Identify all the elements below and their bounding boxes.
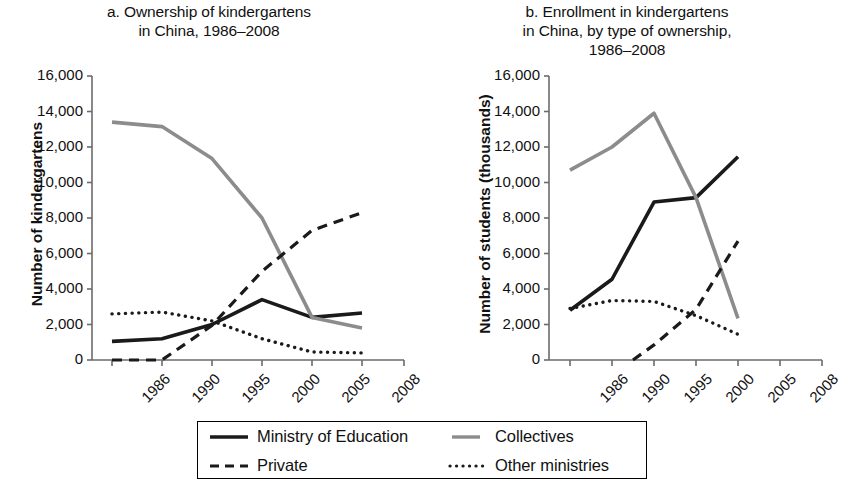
legend-item-ministry-of-education: Ministry of Education (208, 422, 408, 451)
y-tick-label: 6,000 (502, 244, 540, 261)
y-tick-label: 8,000 (45, 208, 83, 225)
legend-row-1: Ministry of Education Collectives (198, 422, 646, 451)
y-tick-label: 12,000 (37, 137, 83, 154)
panel-a-plot (0, 0, 418, 410)
y-tick-label: 16,000 (494, 66, 540, 83)
y-tick-label: 0 (532, 350, 540, 367)
chart-legend: Ministry of Education Collectives Privat… (197, 421, 647, 479)
chart-panel-b: b. Enrollment in kindergartens in China,… (418, 0, 836, 410)
y-tick-label: 0 (75, 350, 83, 367)
y-tick-label: 2,000 (45, 315, 83, 332)
panel-b-plot (418, 0, 836, 410)
legend-label-other-ministries: Other ministries (488, 456, 609, 475)
y-tick-label: 4,000 (502, 279, 540, 296)
solid-gray-line-icon (446, 429, 488, 445)
y-tick-label: 10,000 (37, 173, 83, 190)
y-tick-label: 12,000 (494, 137, 540, 154)
y-tick-label: 14,000 (494, 102, 540, 119)
chart-panel-a: a. Ownership of kindergartens in China, … (0, 0, 418, 410)
dashed-line-icon (208, 458, 250, 474)
dotted-line-icon (446, 458, 488, 474)
y-tick-label: 6,000 (45, 244, 83, 261)
legend-label-ministry-of-education: Ministry of Education (250, 427, 408, 446)
y-tick-label: 2,000 (502, 315, 540, 332)
solid-black-line-icon (208, 429, 250, 445)
legend-item-collectives: Collectives (446, 422, 574, 451)
y-tick-label: 10,000 (494, 173, 540, 190)
y-tick-label: 16,000 (37, 66, 83, 83)
series-line-other-ministries (570, 301, 738, 335)
legend-row-2: Private Other ministries (198, 451, 646, 480)
legend-item-private: Private (208, 451, 308, 480)
series-line-other-ministries (112, 312, 362, 353)
series-line-ministry-of-education (570, 157, 738, 311)
y-tick-label: 14,000 (37, 102, 83, 119)
y-tick-label: 4,000 (45, 279, 83, 296)
legend-label-private: Private (250, 456, 308, 475)
legend-item-other-ministries: Other ministries (446, 451, 609, 480)
series-line-collectives (570, 113, 738, 318)
y-tick-label: 8,000 (502, 208, 540, 225)
legend-label-collectives: Collectives (488, 427, 574, 446)
